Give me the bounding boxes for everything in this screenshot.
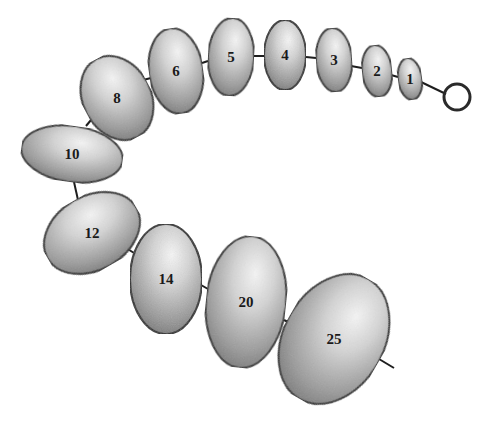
bead-label: 2 [373,63,381,79]
bead-5: 5 [206,17,256,97]
bead-label: 1 [406,71,414,87]
bead-label: 14 [159,271,175,287]
bead-4: 4 [264,20,306,90]
connector-line [74,182,78,200]
bead-label: 10 [65,146,80,162]
bead-label: 12 [85,225,100,241]
beads-group: 12345681012142025 [18,17,425,424]
ring-circle [444,84,470,110]
bead-label: 20 [239,294,254,310]
bead-chain-diagram: 12345681012142025 [0,0,500,437]
bead-label: 3 [330,52,338,68]
connector-line [306,57,316,58]
bead-label: 5 [227,49,235,65]
bead-label: 8 [113,90,121,106]
diagram-canvas: 12345681012142025 [0,0,500,437]
connector-line [421,82,446,94]
attachment-ring [444,84,470,110]
bead-label: 6 [172,63,180,79]
bead-14: 14 [130,224,202,334]
bead-label: 25 [327,331,342,347]
bead-label: 4 [281,47,289,63]
bead-3: 3 [314,27,354,93]
bead-2: 2 [359,44,394,99]
bead-1: 1 [395,57,425,102]
